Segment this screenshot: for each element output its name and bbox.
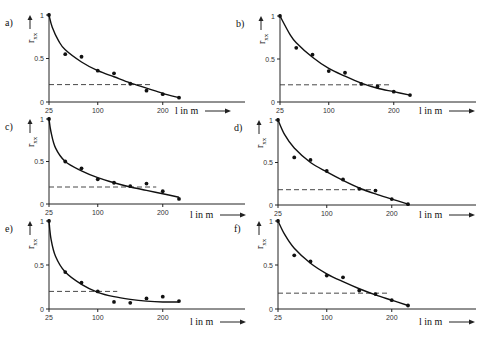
- data-point: [47, 117, 51, 121]
- data-point: [292, 253, 296, 257]
- y-tick-label: 1: [40, 116, 44, 123]
- x-axis-label: l in m: [419, 105, 443, 116]
- data-point: [128, 301, 132, 305]
- data-point: [80, 55, 84, 59]
- panel-d: 00.5125100200d)rxxl in m: [234, 117, 476, 221]
- data-point: [294, 46, 298, 50]
- panel-label: e): [5, 223, 13, 235]
- data-point: [145, 297, 149, 301]
- y-tick-label: 1: [269, 117, 273, 124]
- data-point: [341, 275, 345, 279]
- data-point: [112, 71, 116, 75]
- y-tick-label: 0: [269, 202, 273, 209]
- x-tick-label: 100: [321, 210, 333, 217]
- data-point: [177, 299, 181, 303]
- y-tick-label: 1: [271, 13, 275, 20]
- data-point: [325, 274, 329, 278]
- data-point: [276, 219, 280, 223]
- data-point: [359, 82, 363, 86]
- y-axis-label: rxx: [254, 238, 268, 249]
- x-tick-label: 100: [323, 107, 335, 114]
- panel-label: a): [5, 17, 13, 29]
- y-tick-label: 0: [271, 99, 275, 106]
- y-tick-label: 1: [40, 218, 44, 225]
- x-axis-label: l in m: [419, 209, 443, 220]
- fit-curve: [49, 15, 179, 98]
- data-point: [112, 300, 116, 304]
- x-tick-label: 100: [92, 314, 104, 321]
- x-tick-label: 25: [274, 314, 282, 321]
- fit-curve: [278, 120, 408, 204]
- data-point: [374, 189, 378, 193]
- panel-label: b): [236, 18, 244, 30]
- x-tick-label: 25: [45, 107, 53, 114]
- x-axis-label: l in m: [419, 316, 443, 327]
- data-point: [374, 292, 378, 296]
- y-tick-label: 1: [269, 218, 273, 225]
- data-point: [343, 71, 347, 75]
- panel-f: 00.5125100200f)rxxl in m: [234, 218, 476, 328]
- y-tick-label: 0: [40, 201, 44, 208]
- data-point: [341, 178, 345, 182]
- data-point: [128, 184, 132, 188]
- y-tick-label: 0: [269, 306, 273, 313]
- panel-label: c): [5, 121, 13, 133]
- y-axis-label: rxx: [25, 238, 39, 249]
- x-tick-label: 200: [386, 210, 398, 217]
- y-tick-label: 0.5: [34, 55, 44, 62]
- data-point: [145, 182, 149, 186]
- data-point: [406, 304, 410, 308]
- data-point: [161, 189, 165, 193]
- y-axis-label: rxx: [254, 137, 268, 148]
- y-tick-label: 0.5: [34, 262, 44, 269]
- correlation-figure: 00.5125100200a)rxxl in m00.5125100200b)r…: [0, 0, 487, 337]
- y-axis-label: rxx: [256, 33, 270, 44]
- y-tick-label: 0.5: [265, 56, 275, 63]
- x-tick-label: 100: [92, 209, 104, 216]
- x-tick-label: 200: [386, 314, 398, 321]
- data-point: [408, 93, 412, 97]
- x-tick-label: 200: [157, 107, 169, 114]
- data-point: [390, 197, 394, 201]
- panel-b: 00.5125100200b)rxxl in m: [236, 13, 476, 117]
- data-point: [63, 270, 67, 274]
- x-axis-label: l in m: [190, 209, 214, 220]
- data-point: [357, 289, 361, 293]
- y-tick-label: 0.5: [263, 159, 273, 166]
- x-tick-label: 25: [45, 209, 53, 216]
- data-point: [80, 166, 84, 170]
- panel-c: 00.5125100200c)rxxl in m: [5, 116, 246, 221]
- data-point: [292, 156, 296, 160]
- data-point: [128, 82, 132, 86]
- data-point: [63, 52, 67, 56]
- data-point: [112, 181, 116, 185]
- y-tick-label: 0: [40, 99, 44, 106]
- data-point: [309, 158, 313, 162]
- data-point: [47, 13, 51, 17]
- y-axis-label: rxx: [25, 136, 39, 147]
- y-axis-label: rxx: [25, 32, 39, 43]
- y-tick-label: 0.5: [263, 262, 273, 269]
- x-axis-label: l in m: [175, 105, 199, 116]
- x-tick-label: 25: [274, 210, 282, 217]
- x-tick-label: 100: [92, 107, 104, 114]
- data-point: [96, 69, 100, 73]
- data-point: [376, 85, 380, 89]
- fit-curve: [280, 16, 410, 95]
- x-tick-label: 25: [45, 314, 53, 321]
- data-point: [278, 14, 282, 18]
- x-tick-label: 25: [276, 107, 284, 114]
- data-point: [80, 281, 84, 285]
- data-point: [390, 298, 394, 302]
- x-tick-label: 100: [321, 314, 333, 321]
- data-point: [406, 202, 410, 206]
- fit-curve: [49, 221, 179, 302]
- data-point: [177, 96, 181, 100]
- panel-label: f): [234, 223, 241, 235]
- data-point: [63, 160, 67, 164]
- data-point: [276, 118, 280, 122]
- data-point: [392, 90, 396, 94]
- panel-e: 00.5125100200e)rxxl in m: [5, 218, 246, 328]
- fit-curve: [49, 119, 179, 197]
- panel-label: d): [234, 122, 242, 134]
